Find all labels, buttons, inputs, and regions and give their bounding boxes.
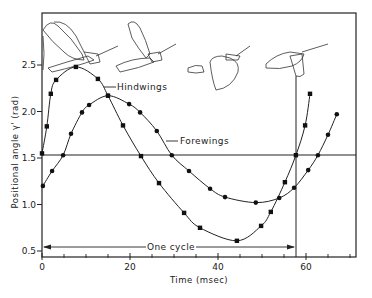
data-point-marker: [187, 169, 192, 174]
x-tick-label: 40: [212, 262, 224, 272]
data-point-marker: [45, 124, 49, 128]
y-axis: 0.51.01.52.02.5: [22, 60, 42, 256]
data-point-marker: [254, 200, 259, 205]
locust-wing-position-4-icon: [266, 44, 328, 77]
data-point-marker: [308, 92, 312, 96]
data-point-marker: [96, 77, 100, 81]
data-point-marker: [170, 153, 175, 158]
data-point-marker: [74, 65, 78, 69]
data-point-marker: [127, 102, 132, 107]
y-tick-label: 2.0: [22, 107, 37, 117]
forewings-label: Forewings: [180, 136, 229, 146]
locust-wing-position-3-icon: [188, 46, 250, 90]
y-tick-label: 0.5: [22, 246, 36, 256]
wing-illustrations: [43, 22, 328, 90]
data-point-marker: [277, 196, 282, 201]
data-point-marker: [155, 129, 160, 134]
data-point-marker: [235, 239, 239, 243]
y-tick-label: 1.5: [22, 153, 36, 163]
y-tick-label: 2.5: [22, 60, 36, 70]
data-point-marker: [80, 110, 85, 115]
data-point-marker: [223, 195, 228, 200]
x-axis-title: Time (msec): [169, 275, 228, 285]
data-point-marker: [182, 211, 186, 215]
data-point-marker: [283, 180, 287, 184]
x-tick-label: 20: [124, 262, 136, 272]
data-point-marker: [138, 110, 143, 115]
data-point-marker: [40, 151, 44, 155]
data-point-marker: [139, 154, 143, 158]
data-point-marker: [61, 153, 66, 158]
hindwings-curve: [42, 67, 310, 241]
data-point-marker: [208, 186, 213, 191]
x-axis: 0204060: [39, 253, 350, 272]
data-point-marker: [269, 210, 273, 214]
x-tick-label: 0: [39, 262, 45, 272]
y-axis-title: Positional angle γ' (rad): [10, 96, 20, 209]
data-point-marker: [306, 168, 311, 173]
data-point-marker: [121, 123, 125, 127]
data-point-marker: [49, 92, 53, 96]
data-point-marker: [157, 181, 161, 185]
data-point-marker: [316, 153, 321, 158]
hindwings-label: Hindwings: [117, 82, 167, 92]
data-point-marker: [106, 93, 111, 98]
data-point-marker: [294, 153, 298, 157]
data-point-marker: [54, 78, 58, 82]
wing-angle-chart: 0.51.01.52.02.5 0204060 Time (msec) Posi…: [0, 0, 372, 298]
locust-wing-position-2-icon: [116, 22, 176, 72]
data-point-marker: [41, 184, 46, 189]
one-cycle-label: One cycle: [147, 242, 195, 252]
hindwings-series: [40, 65, 312, 243]
data-point-marker: [87, 103, 92, 108]
x-tick-label: 60: [300, 262, 312, 272]
series-layer: [40, 65, 339, 243]
data-point-marker: [303, 123, 307, 127]
y-tick-label: 1.0: [22, 200, 37, 210]
data-point-marker: [335, 112, 340, 117]
data-point-marker: [259, 224, 263, 228]
data-point-marker: [50, 169, 55, 174]
data-point-marker: [326, 133, 331, 138]
data-point-marker: [69, 132, 74, 137]
forewings-series: [41, 93, 340, 205]
data-point-marker: [198, 226, 202, 230]
locust-wing-position-1-icon: [43, 22, 118, 72]
data-point-marker: [292, 186, 297, 191]
